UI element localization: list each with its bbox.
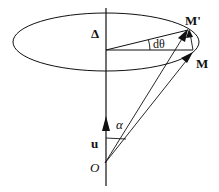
rotation-diagram: Δ M' M dθ u α O: [0, 0, 219, 192]
vector-om-arrowhead: [181, 52, 193, 63]
angle-dtheta-label: dθ: [153, 37, 165, 51]
angle-alpha-label: α: [116, 117, 124, 132]
unit-vector-u-arrow: [102, 116, 110, 131]
vector-om-prime: [105, 34, 185, 163]
axis-delta-label: Δ: [91, 26, 99, 41]
unit-vector-u-label: u: [91, 136, 98, 151]
origin-o-label: O: [90, 160, 100, 175]
point-m-prime-label: M': [185, 13, 201, 28]
point-m-label: M: [196, 56, 208, 71]
radius-to-m-prime: [106, 30, 188, 50]
dtheta-arc: [149, 40, 151, 50]
alpha-angle-marker: [106, 138, 126, 139]
vector-om: [105, 56, 190, 163]
